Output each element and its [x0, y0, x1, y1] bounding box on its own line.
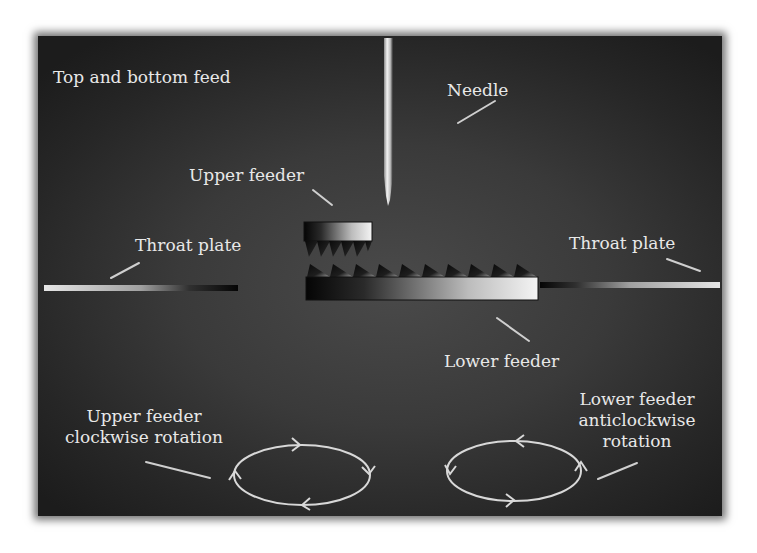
upper-rotation-label: Upper feeder clockwise rotation — [54, 406, 234, 448]
throat-plate-right — [540, 282, 720, 288]
throat-plate-left-label: Throat plate — [135, 235, 241, 256]
throat-plate-right-label: Throat plate — [569, 233, 675, 254]
needle — [384, 38, 393, 206]
lower-feeder — [306, 264, 538, 300]
needle-label: Needle — [447, 80, 508, 101]
upper-feeder-label: Upper feeder — [189, 165, 304, 186]
lower-rotation-label-line3: rotation — [567, 431, 707, 452]
diagram-title: Top and bottom feed — [53, 67, 231, 88]
lower-rotation-label-line2: anticlockwise — [567, 410, 707, 431]
lower-feeder-label: Lower feeder — [444, 351, 559, 372]
lower-rotation-label-line1: Lower feeder — [567, 389, 707, 410]
upper-rotation-label-line2: clockwise rotation — [54, 427, 234, 448]
upper-feeder-rotation-path — [229, 438, 375, 510]
throat-plate-left — [44, 285, 238, 291]
upper-rotation-label-line1: Upper feeder — [54, 406, 234, 427]
upper-feeder — [304, 222, 372, 257]
lower-rotation-label: Lower feeder anticlockwise rotation — [567, 389, 707, 452]
lower-feeder-rotation-path — [445, 435, 587, 507]
